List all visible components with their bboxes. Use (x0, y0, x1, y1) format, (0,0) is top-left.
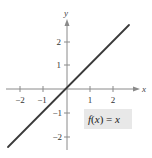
x-tick-label: −1 (37, 95, 47, 105)
y-tick-label: 2 (57, 37, 62, 47)
y-tick-label: −2 (52, 132, 62, 142)
fn-equals: = (103, 113, 115, 125)
fn-rhs: x (114, 113, 120, 125)
x-axis-label: x (141, 84, 146, 94)
x-tick-label: 1 (88, 95, 93, 105)
y-axis: 2 1 −1 −2 y (52, 8, 70, 150)
x-tick-label: 2 (111, 95, 116, 105)
x-tick-label: −2 (15, 95, 25, 105)
y-tick-label: −1 (52, 108, 62, 118)
y-axis-arrow-icon (65, 19, 70, 26)
function-graph: −2 −1 1 2 x 2 1 −1 −2 y f(x) = x (0, 0, 152, 158)
function-label: f(x) = x (88, 113, 120, 126)
y-axis-label: y (63, 8, 68, 18)
y-tick-label: 1 (57, 60, 62, 70)
x-axis: −2 −1 1 2 x (6, 84, 146, 105)
x-axis-arrow-icon (133, 87, 140, 92)
